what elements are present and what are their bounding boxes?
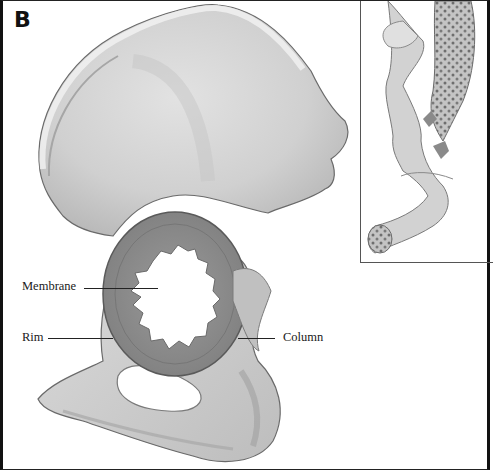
label-column: Column xyxy=(283,331,323,344)
label-membrane: Membrane xyxy=(22,280,76,293)
leader-line-membrane xyxy=(84,288,158,289)
iliac-wing xyxy=(39,5,348,236)
panel-letter: B xyxy=(14,9,31,31)
label-rim: Rim xyxy=(22,331,44,344)
leader-line-column xyxy=(238,338,275,339)
acetabulum xyxy=(103,212,247,376)
leader-line-rim xyxy=(48,338,113,339)
inset-frame xyxy=(360,1,493,263)
